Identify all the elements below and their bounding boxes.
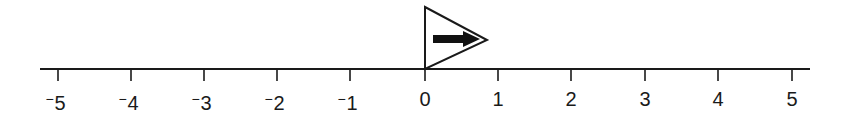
tick-label: −1	[337, 88, 357, 114]
tick-label: 5	[786, 88, 797, 110]
tick-value: 1	[492, 88, 503, 110]
tick-value: 3	[201, 92, 212, 114]
tick-marks	[58, 69, 792, 81]
tick-value: 4	[128, 92, 139, 114]
tick-value: 2	[565, 88, 576, 110]
tick-value: 1	[347, 92, 358, 114]
tick-label: 1	[492, 88, 503, 110]
tick-label: 2	[565, 88, 576, 110]
number-line-diagram: −5−4−3−2−1012345	[0, 0, 844, 117]
tick-value: 5	[55, 92, 66, 114]
tick-label: −4	[118, 88, 138, 114]
tick-label: 4	[712, 88, 723, 110]
tick-value: 4	[712, 88, 723, 110]
tick-label: −3	[191, 88, 211, 114]
direction-marker	[425, 7, 487, 69]
tick-label: −2	[264, 88, 284, 114]
tick-value: 3	[639, 88, 650, 110]
tick-value: 2	[274, 92, 285, 114]
negative-sign: −	[191, 88, 199, 110]
negative-sign: −	[337, 88, 345, 110]
negative-sign: −	[264, 88, 272, 110]
tick-label: −5	[45, 88, 65, 114]
negative-sign: −	[118, 88, 126, 110]
tick-label: 3	[639, 88, 650, 110]
negative-sign: −	[45, 88, 53, 110]
tick-value: 0	[419, 88, 430, 110]
tick-value: 5	[786, 88, 797, 110]
tick-label: 0	[419, 88, 430, 110]
